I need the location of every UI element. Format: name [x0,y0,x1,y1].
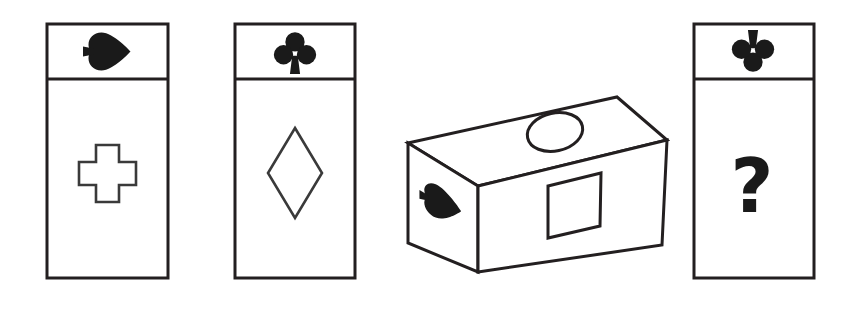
square-shape [548,173,601,238]
card-4[interactable]: ? [694,24,814,278]
puzzle-canvas: ? [0,0,851,317]
puzzle-illustration: ? [0,0,851,317]
question-mark: ? [731,143,774,229]
card-1[interactable] [47,24,168,278]
card-2[interactable] [235,24,355,278]
isometric-box[interactable] [408,97,667,272]
